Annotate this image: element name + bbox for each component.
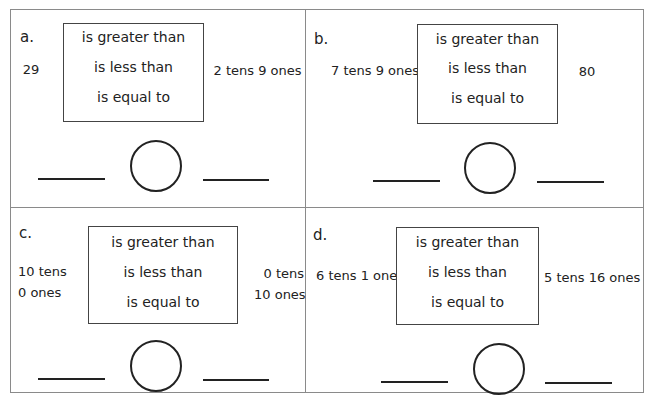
option-greater: is greater than [64,29,203,45]
option-equal: is equal to [89,294,237,310]
option-equal: is equal to [64,89,203,105]
right-value: 2 tens 9 ones [210,59,305,83]
left-value: 6 tens 1 one [316,264,396,288]
left-answer-blank[interactable] [381,381,448,383]
left-value: 29 [14,58,48,82]
problem-label: c. [19,224,32,242]
right-value: 80 [572,60,602,84]
problem-label: d. [313,226,327,244]
right-value: 0 tens 10 ones [254,263,304,305]
right-answer-blank[interactable] [537,181,604,183]
left-value-line-2: 0 ones [18,282,64,303]
comparison-circle[interactable] [464,142,516,194]
option-less: is less than [397,264,538,280]
right-value-line-1: 0 tens [254,263,304,284]
problem-label: b. [314,30,328,48]
left-answer-blank[interactable] [38,378,105,380]
vertical-divider [305,9,306,393]
option-equal: is equal to [418,90,557,106]
horizontal-divider [10,207,644,208]
comparison-circle[interactable] [130,140,182,192]
right-answer-blank[interactable] [545,382,612,384]
right-answer-blank[interactable] [203,179,269,181]
option-greater: is greater than [89,234,237,250]
option-greater: is greater than [418,31,557,47]
option-less: is less than [418,60,557,76]
option-less: is less than [64,59,203,75]
right-value-line-2: 10 ones [254,284,304,305]
comparison-options-box: is greater than is less than is equal to [63,23,204,122]
left-value-line-1: 10 tens [18,261,64,282]
left-value: 7 tens 9 ones [331,59,419,83]
comparison-circle[interactable] [130,340,182,392]
left-answer-blank[interactable] [373,180,440,182]
problem-label: a. [20,28,34,46]
comparison-options-box: is greater than is less than is equal to [396,227,539,325]
option-less: is less than [89,264,237,280]
left-answer-blank[interactable] [38,178,105,180]
comparison-circle[interactable] [473,343,525,395]
left-value: 10 tens 0 ones [18,261,64,303]
option-equal: is equal to [397,294,538,310]
comparison-options-box: is greater than is less than is equal to [88,226,238,324]
right-value: 5 tens 16 ones [544,266,636,290]
comparison-options-box: is greater than is less than is equal to [417,24,558,124]
option-greater: is greater than [397,234,538,250]
right-answer-blank[interactable] [203,379,269,381]
